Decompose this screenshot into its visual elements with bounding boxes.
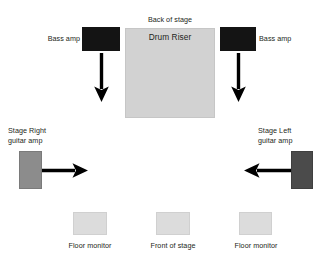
guitar-amp-stage-right-label: Stage Right guitar amp [8,126,74,145]
bass-amp-left-down-arrow-icon [93,53,110,103]
bass-amp-right-shape [220,27,256,51]
stage-layout-diagram: Back of stage Drum Riser Bass amp Bass a… [0,0,321,262]
guitar-amp-stage-right-shape [19,151,42,189]
guitar-amp-stage-left-arrow-icon [243,162,291,179]
floor-monitor-right-label: Floor monitor [224,241,288,251]
guitar-amp-stage-left-shape [291,151,313,189]
bass-amp-right-label: Bass amp [259,34,303,44]
floor-monitor-left-shape [73,212,107,235]
guitar-amp-stage-right-arrow-icon [42,162,89,179]
floor-monitor-right-shape [239,212,272,235]
front-of-stage-marker-shape [156,212,190,235]
bass-amp-left-shape [82,27,120,51]
bass-amp-right-down-arrow-icon [230,53,247,103]
guitar-amp-stage-left-label: Stage Left guitar amp [258,126,320,145]
front-of-stage-label: Front of stage [140,241,206,251]
floor-monitor-left-label: Floor monitor [58,241,122,251]
drum-riser-label: Drum Riser [125,33,215,43]
bass-amp-left-label: Bass amp [40,34,80,44]
back-of-stage-label: Back of stage [120,15,220,25]
